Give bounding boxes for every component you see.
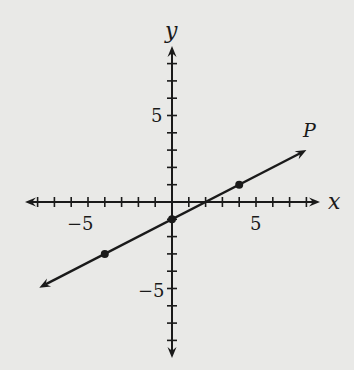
y-tick-label-neg5: −5 (138, 280, 165, 301)
marked-point (168, 215, 176, 223)
x-tick-label-5: 5 (250, 213, 261, 234)
axes (25, 46, 320, 358)
axis-labels: x y P −5 5 5 −5 (67, 18, 341, 301)
coordinate-plane: x y P −5 5 5 −5 (0, 0, 354, 370)
marked-point (101, 250, 109, 258)
plot-svg: x y P −5 5 5 −5 (0, 0, 354, 370)
marked-point (235, 181, 243, 189)
x-axis-label: x (328, 189, 341, 214)
line-label-p: P (302, 119, 317, 141)
x-tick-label-neg5: −5 (67, 213, 94, 234)
y-axis-label: y (164, 18, 178, 43)
y-tick-label-5: 5 (151, 105, 162, 126)
